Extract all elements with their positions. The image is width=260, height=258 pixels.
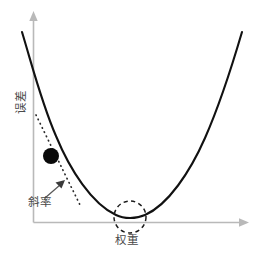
- current-point-dot: [43, 148, 59, 164]
- y-axis-label: 误差: [15, 85, 27, 119]
- x-axis-label: 权重: [115, 234, 138, 246]
- arrow-up-icon: [29, 11, 37, 21]
- loss-curve-diagram: 误差 斜率 权重: [0, 0, 260, 258]
- arrow-right-icon: [239, 218, 249, 226]
- y-axis: [29, 11, 37, 223]
- slope-label: 斜率: [28, 196, 51, 208]
- tangent-dotted-line: [36, 115, 81, 207]
- diagram-canvas: [0, 0, 260, 258]
- x-axis: [34, 218, 250, 226]
